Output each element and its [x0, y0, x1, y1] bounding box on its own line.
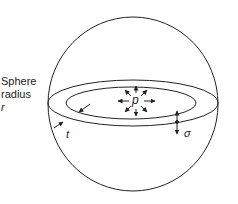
thickness-label: t [66, 128, 69, 141]
sphere-label: Sphere radius r [1, 75, 36, 114]
stress-label: σ [184, 127, 191, 140]
pressure-label: p [132, 94, 139, 107]
thickness-arrows-icon [54, 104, 90, 128]
